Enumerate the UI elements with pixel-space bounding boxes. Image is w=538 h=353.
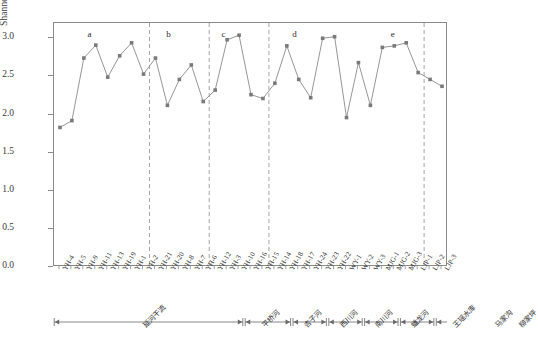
data-point-marker [201,100,205,104]
data-point-marker [273,81,277,85]
data-point-marker [142,72,146,76]
data-point-marker [369,104,373,108]
data-point-marker [345,116,349,120]
y-tick-label: 1.0 [0,184,14,194]
series-line [60,35,442,127]
data-point-marker [333,35,337,39]
data-point-marker [261,97,265,101]
data-point-marker [237,33,241,37]
data-point-marker [190,63,194,67]
data-point-marker [166,104,170,108]
data-point-marker [225,38,229,42]
data-point-marker [357,61,361,65]
x-axis-tick-marks [53,266,447,270]
data-point-marker [154,56,158,60]
data-point-marker [440,84,444,88]
data-point-marker [404,41,408,45]
data-point-marker [58,126,62,130]
data-point-marker [118,54,122,58]
data-point-marker [381,46,385,50]
data-point-marker [285,44,289,48]
data-point-marker [82,56,86,60]
data-point-marker [94,43,98,47]
data-point-marker [130,41,134,45]
y-tick-label: 3.0 [0,31,14,41]
data-point-marker [70,119,74,123]
data-point-marker [392,44,396,48]
group-letter: c [221,29,225,39]
group-letter: b [166,29,171,39]
data-point-marker [213,88,217,92]
region-label: 马家沟 [492,307,514,329]
data-point-marker [249,93,253,97]
region-label: 柳家坪 [516,307,538,329]
data-point-marker [178,78,182,82]
region-label: 王瑶水库 [450,302,477,329]
plot-area: abcde [53,22,447,266]
data-point-marker [297,78,301,82]
group-letter: e [391,29,395,39]
data-point-marker [321,36,325,40]
y-axis-title: Shannon-Wiener多样性指数 [0,0,10,26]
group-letter: a [87,29,91,39]
data-point-marker [428,78,432,82]
region-labels: 延河干流平桥河杏子河西川河南川河蟠龙河王瑶水库马家沟柳家坪 [53,322,453,353]
data-point-marker [309,96,313,100]
data-point-marker [106,75,110,79]
x-axis-labels: YH-4YH-5YH-9YH-11YH-13YH-19YH-1YH-2YH-21… [53,268,447,314]
data-series-layer [54,23,448,267]
data-point-marker [416,71,420,75]
y-tick-label: 0.0 [0,260,14,270]
y-tick-label: 0.5 [0,222,14,232]
y-tick-label: 1.5 [0,146,14,156]
y-tick-label: 2.5 [0,69,14,79]
y-tick-label: 2.0 [0,108,14,118]
group-letter: d [292,29,297,39]
